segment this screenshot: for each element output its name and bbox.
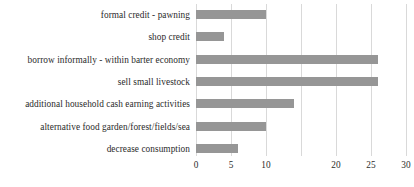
xtick-label-25: 25 [366, 160, 375, 170]
category-axis: formal credit - pawning shop credit borr… [0, 4, 414, 156]
category-label-borrow-informally: borrow informally - within barter econom… [0, 49, 190, 71]
category-label-sell-small-livestock: sell small livestock [0, 71, 190, 93]
category-label-additional-household-cash: additional household cash earning activi… [0, 93, 190, 115]
xtick-label-0: 0 [194, 160, 199, 170]
xtick-label-20: 20 [331, 160, 340, 170]
category-label-alternative-food-garden: alternative food garden/forest/fields/se… [0, 116, 190, 138]
category-label-decrease-consumption: decrease consumption [0, 138, 190, 160]
category-label-shop-credit: shop credit [0, 26, 190, 48]
bar-chart: formal credit - pawning shop credit borr… [0, 0, 414, 187]
xtick-label-30: 30 [401, 160, 410, 170]
category-label-formal-credit-pawning: formal credit - pawning [0, 4, 190, 26]
xtick-label-5: 5 [229, 160, 234, 170]
x-axis: 0 5 10 20 25 30 [196, 160, 406, 180]
xtick-label-10: 10 [261, 160, 270, 170]
